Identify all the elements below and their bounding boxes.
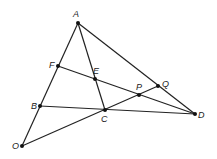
point-P [137, 93, 141, 97]
labels: AFEPQBCDO [12, 9, 205, 151]
label-A: A [72, 9, 79, 19]
label-C: C [101, 114, 108, 124]
point-F [56, 64, 60, 68]
point-D [193, 112, 197, 116]
segment-FD [58, 66, 195, 114]
segment-OA [22, 23, 78, 146]
points [20, 21, 197, 148]
point-B [38, 104, 42, 108]
label-D: D [198, 110, 205, 120]
label-Q: Q [162, 79, 169, 89]
label-O: O [12, 141, 19, 151]
label-B: B [31, 101, 37, 111]
point-C [103, 108, 107, 112]
segments [22, 23, 195, 146]
point-O [20, 144, 24, 148]
segment-AC [78, 23, 105, 110]
point-Q [156, 84, 160, 88]
label-E: E [93, 66, 100, 76]
point-E [93, 77, 97, 81]
geometry-diagram: AFEPQBCDO [0, 0, 217, 159]
segment-BD [40, 106, 195, 114]
point-A [76, 21, 80, 25]
label-F: F [49, 60, 55, 70]
label-P: P [136, 82, 142, 92]
